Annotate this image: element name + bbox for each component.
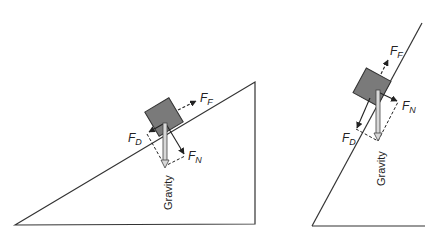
normal-label: FN [402, 99, 416, 115]
block [353, 68, 391, 106]
friction-label: FF [390, 44, 403, 60]
friction-arrow [381, 60, 388, 74]
downslope-label: FD [342, 131, 356, 147]
normal-arrow [166, 124, 184, 154]
steep-incline-diagram: FF FD FN Gravity [312, 23, 425, 226]
friction-arrow [178, 101, 196, 110]
incline-slope [312, 23, 422, 226]
gravity-label: Gravity [162, 175, 174, 210]
downslope-label: FD [128, 131, 142, 147]
gravity-label: Gravity [375, 151, 387, 186]
normal-label: FN [188, 149, 202, 165]
shallow-incline-diagram: FF FD FN Gravity [15, 82, 255, 225]
incline-triangle [15, 82, 255, 225]
friction-label: FF [200, 91, 213, 107]
incline-force-diagrams: FF FD FN Gravity FF [0, 0, 425, 233]
